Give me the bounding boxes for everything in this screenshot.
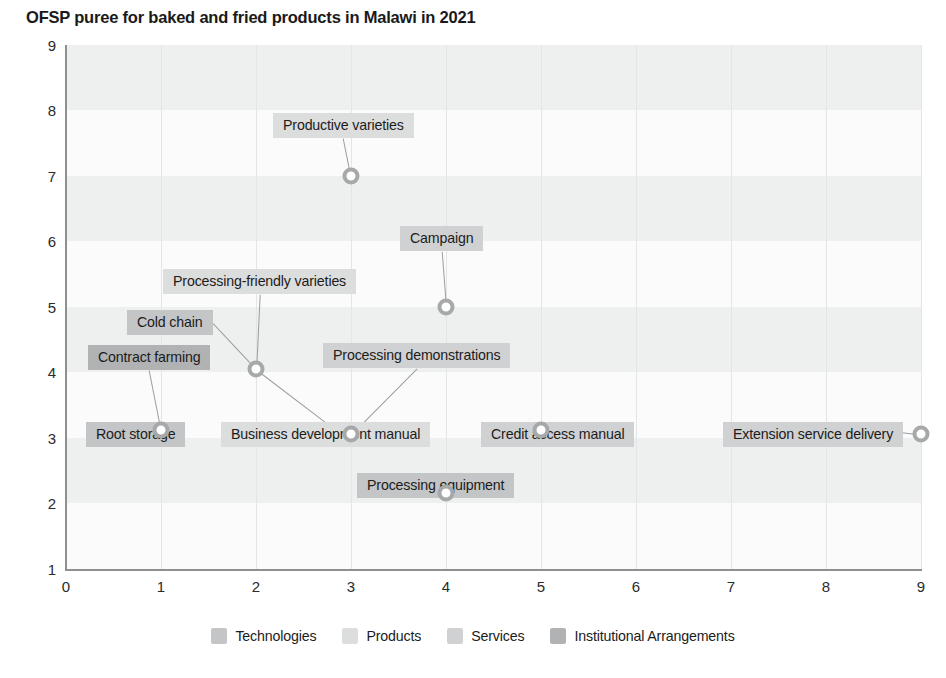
data-point-label[interactable]: Productive varieties — [273, 113, 414, 138]
data-point-label[interactable]: Root storage — [86, 422, 185, 447]
y-tick-label: 9 — [26, 36, 56, 53]
data-point-label[interactable]: Processing-friendly varieties — [163, 269, 356, 294]
x-axis-line — [65, 569, 922, 571]
data-point-label[interactable]: Business development manual — [221, 422, 430, 447]
y-tick-label: 3 — [26, 429, 56, 446]
x-tick-label: 7 — [711, 578, 751, 595]
legend-label: Products — [366, 628, 421, 644]
gridline-vertical — [826, 45, 827, 569]
plot-band — [66, 45, 922, 110]
x-tick-label: 5 — [521, 578, 561, 595]
y-axis-line — [65, 45, 67, 569]
gridline-vertical — [256, 45, 257, 569]
data-point-marker[interactable] — [343, 426, 360, 443]
data-point-marker[interactable] — [438, 298, 455, 315]
page-title: OFSP puree for baked and fried products … — [26, 8, 476, 27]
legend-label: Technologies — [235, 628, 316, 644]
x-tick-label: 9 — [901, 578, 941, 595]
gridline-vertical — [636, 45, 637, 569]
data-point-label[interactable]: Contract farming — [88, 345, 210, 370]
legend-swatch-icon — [550, 628, 566, 644]
legend-swatch-icon — [447, 628, 463, 644]
x-tick-label: 0 — [46, 578, 86, 595]
data-point-label[interactable]: Extension service delivery — [723, 422, 903, 447]
y-tick-label: 1 — [26, 560, 56, 577]
gridline-vertical — [541, 45, 542, 569]
legend-item[interactable]: Products — [342, 628, 421, 644]
x-tick-label: 3 — [331, 578, 371, 595]
gridline-vertical — [921, 45, 922, 569]
x-tick-label: 1 — [141, 578, 181, 595]
legend-label: Services — [471, 628, 524, 644]
data-point-marker[interactable] — [913, 426, 930, 443]
data-point-marker[interactable] — [438, 485, 455, 502]
legend-item[interactable]: Services — [447, 628, 524, 644]
data-point-label[interactable]: Processing equipment — [357, 473, 514, 498]
legend-label: Institutional Arrangements — [574, 628, 734, 644]
legend-swatch-icon — [211, 628, 227, 644]
data-point-marker[interactable] — [533, 421, 550, 438]
data-point-marker[interactable] — [343, 167, 360, 184]
y-tick-label: 5 — [26, 298, 56, 315]
plot-band — [66, 176, 922, 241]
x-tick-label: 4 — [426, 578, 466, 595]
x-tick-label: 6 — [616, 578, 656, 595]
data-point-marker[interactable] — [153, 421, 170, 438]
data-point-label[interactable]: Cold chain — [127, 310, 213, 335]
x-tick-label: 2 — [236, 578, 276, 595]
legend-item[interactable]: Technologies — [211, 628, 316, 644]
y-axis-ticks: 123456789 — [22, 0, 56, 678]
data-point-label[interactable]: Credit access manual — [481, 422, 634, 447]
legend-item[interactable]: Institutional Arrangements — [550, 628, 734, 644]
y-tick-label: 4 — [26, 364, 56, 381]
chart-page: OFSP puree for baked and fried products … — [0, 0, 946, 678]
gridline-vertical — [731, 45, 732, 569]
x-tick-label: 8 — [806, 578, 846, 595]
data-point-marker[interactable] — [248, 360, 265, 377]
data-point-label[interactable]: Processing demonstrations — [323, 343, 510, 368]
legend-swatch-icon — [342, 628, 358, 644]
chart-legend: TechnologiesProductsServicesInstitutiona… — [0, 628, 946, 644]
y-tick-label: 7 — [26, 167, 56, 184]
data-point-label[interactable]: Campaign — [400, 226, 483, 251]
y-tick-label: 6 — [26, 233, 56, 250]
gridline-vertical — [161, 45, 162, 569]
y-tick-label: 2 — [26, 495, 56, 512]
y-tick-label: 8 — [26, 102, 56, 119]
